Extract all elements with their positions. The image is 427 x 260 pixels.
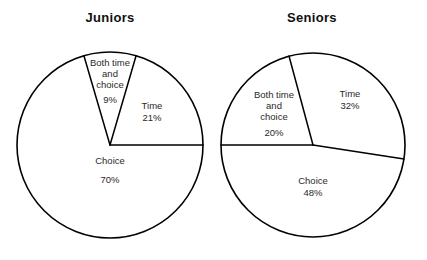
juniors-time-value: 21% — [122, 112, 182, 124]
juniors-choice-label: Choice — [95, 155, 125, 166]
seniors-choice-value: 48% — [273, 187, 353, 199]
two-pie-chart-figure: Juniors Seniors Both time and choice — [0, 0, 427, 260]
juniors-both-label-line2: and — [68, 68, 152, 79]
seniors-slice-label-time: Time 32% — [320, 88, 380, 112]
juniors-time-label: Time — [142, 100, 163, 111]
seniors-pie — [221, 53, 405, 237]
seniors-both-value: 20% — [232, 127, 316, 139]
juniors-both-label-line3: choice — [68, 79, 152, 90]
seniors-slice-label-choice: Choice 48% — [273, 175, 353, 199]
juniors-both-label-line1: Both time — [68, 57, 152, 68]
juniors-slice-label-both-time-and-choice: Both time and choice 9% — [68, 57, 152, 106]
seniors-time-value: 32% — [320, 100, 380, 112]
seniors-choice-label: Choice — [298, 175, 328, 186]
seniors-both-label-line1: Both time — [232, 89, 316, 100]
seniors-slice-label-both-time-and-choice: Both time and choice 20% — [232, 89, 316, 139]
pie-charts-svg — [0, 0, 427, 260]
seniors-both-label-line2: and — [232, 100, 316, 111]
juniors-slice-label-choice: Choice 70% — [70, 155, 150, 186]
seniors-time-label: Time — [340, 88, 361, 99]
juniors-choice-value: 70% — [70, 174, 150, 186]
seniors-both-label-line3: choice — [232, 111, 316, 122]
juniors-slice-label-time: Time 21% — [122, 100, 182, 124]
